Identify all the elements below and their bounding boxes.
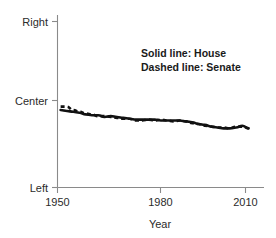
- series-line-senate: [61, 107, 249, 129]
- legend-line-senate: Dashed line: Senate: [141, 61, 241, 73]
- x-axis-label-1980: 1980: [148, 196, 172, 208]
- y-axis-label-right: Right: [22, 16, 48, 28]
- y-axis-label-left: Left: [30, 182, 48, 194]
- legend-line-house: Solid line: House: [141, 47, 226, 59]
- x-axis-title: Year: [149, 218, 172, 230]
- chart-canvas: Right Center Left 1950 1980 2010 Year So…: [0, 0, 276, 238]
- x-axis-label-2010: 2010: [233, 196, 257, 208]
- chart-figure: Right Center Left 1950 1980 2010 Year So…: [0, 0, 276, 238]
- y-axis-label-center: Center: [15, 95, 48, 107]
- x-axis-label-1950: 1950: [45, 196, 69, 208]
